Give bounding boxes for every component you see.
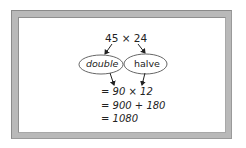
arrow-from-halve-icon xyxy=(142,73,145,85)
arrow-from-double-icon xyxy=(110,73,114,85)
diagram-graphics xyxy=(0,0,246,148)
halve-label: halve xyxy=(134,59,160,69)
double-label: double xyxy=(86,59,118,69)
calculation-step-3: = 1080 xyxy=(101,114,138,124)
expression-title: 45 × 24 xyxy=(105,33,147,44)
calculation-step-1: = 90 × 12 xyxy=(101,87,153,97)
arrow-to-double-icon xyxy=(105,44,112,54)
calculation-step-2: = 900 + 180 xyxy=(101,101,165,111)
arrow-to-halve-icon xyxy=(138,44,145,53)
